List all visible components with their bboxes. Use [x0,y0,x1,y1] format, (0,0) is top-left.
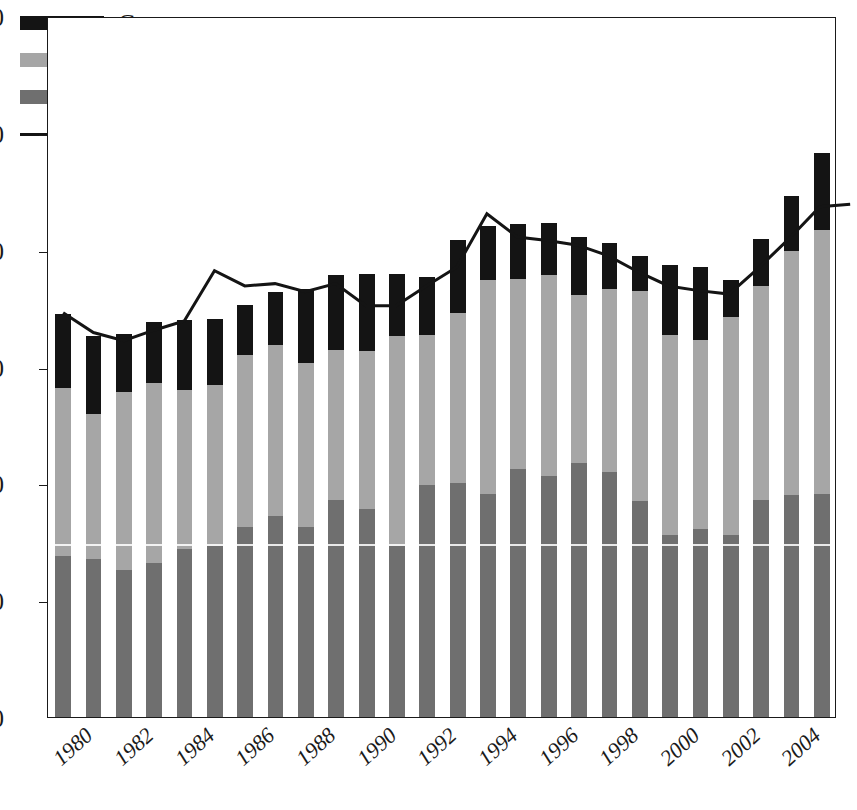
x-tick-label: 1992 [414,724,461,770]
y-tick-label: 10 [0,589,4,614]
investment-line-layer [48,18,835,717]
x-tick-label: 1980 [49,724,96,770]
plot-area [47,17,836,718]
x-tick-label: 1984 [171,724,218,770]
y-tick-label: 20 [0,472,4,497]
x-tick-label: 2004 [778,724,825,770]
x-tick-label: 1996 [535,724,582,770]
y-tick-mark [39,602,48,603]
x-tick-label: 1994 [474,724,521,770]
y-tick-mark [39,135,48,136]
y-tick-label: 50 [0,121,4,146]
y-tick-label: 30 [0,355,4,380]
y-tick-mark [39,369,48,370]
investment-line [63,204,850,340]
y-tick-label: 60 [0,5,4,30]
x-tick-label: 1988 [292,724,339,770]
y-tick-mark [39,485,48,486]
y-tick-mark [39,252,48,253]
x-tick-label: 2000 [656,724,703,770]
x-tick-label: 1982 [110,724,157,770]
y-tick-label: 40 [0,238,4,263]
x-tick-label: 2002 [717,724,764,770]
x-tick-label: 1990 [353,724,400,770]
x-tick-label: 1986 [232,724,279,770]
chart-page: GovernmentCorporateHouseholdInvestment 0… [0,0,857,810]
x-tick-label: 1998 [596,724,643,770]
y-tick-label: 0 [0,706,4,731]
